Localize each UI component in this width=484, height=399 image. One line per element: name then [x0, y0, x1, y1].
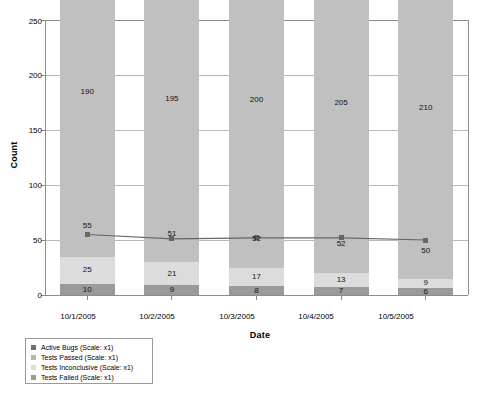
- y-tick-label-200: 200: [14, 72, 42, 80]
- x-tick-label-2: 10/2/2005: [122, 313, 192, 321]
- legend-label-active-bugs: Active Bugs (Scale: x1): [41, 344, 113, 351]
- x-tick-label-4: 10/4/2005: [281, 313, 351, 321]
- bar-segment-value: 8: [237, 287, 277, 295]
- y-tick-label-100: 100: [14, 182, 42, 190]
- bar-segment-value: 190: [67, 88, 107, 96]
- bar-segment-value: 52: [321, 240, 361, 248]
- bar-segment-value: 210: [406, 104, 446, 112]
- bar-segment-value: 50: [406, 247, 446, 255]
- bar-segment-value: 6: [406, 288, 446, 296]
- bar-segment-value: 25: [67, 266, 107, 274]
- legend-label-tests-failed: Tests Failed (Scale: x1): [41, 374, 114, 381]
- bar-segment-value: 55: [67, 222, 107, 230]
- x-tick-label-3: 10/3/2005: [202, 313, 272, 321]
- bar-segment-value: 13: [321, 276, 361, 284]
- chart-legend: Active Bugs (Scale: x1) Tests Passed (Sc…: [25, 338, 153, 384]
- bar-segment-value: 51: [152, 230, 192, 238]
- legend-item-tests-inconclusive: Tests Inconclusive (Scale: x1): [31, 363, 152, 373]
- y-tick-label-250: 250: [14, 18, 42, 26]
- bar-segment-value: 200: [237, 96, 277, 104]
- y-tick-label-150: 150: [14, 127, 42, 135]
- legend-label-tests-inconclusive: Tests Inconclusive (Scale: x1): [41, 364, 133, 371]
- bar-segment-value: 7: [321, 287, 361, 295]
- bar-segment-value: 9: [406, 279, 446, 287]
- legend-item-tests-failed: Tests Failed (Scale: x1): [31, 373, 152, 383]
- legend-swatch-tests-failed: [31, 375, 36, 380]
- bar-segment-value: 52: [237, 235, 277, 243]
- bar-segment-value: 21: [152, 270, 192, 278]
- legend-label-tests-passed: Tests Passed (Scale: x1): [41, 354, 118, 361]
- bar-segment-value: 10: [67, 286, 107, 294]
- x-tick-label-5: 10/5/2005: [361, 313, 431, 321]
- x-tick-label-1: 10/1/2005: [43, 313, 113, 321]
- bar-segment-value: 17: [237, 273, 277, 281]
- bar-segment-value: 205: [321, 99, 361, 107]
- legend-swatch-tests-passed: [31, 355, 36, 360]
- legend-item-tests-passed: Tests Passed (Scale: x1): [31, 353, 152, 363]
- bar-segment-value: 9: [152, 286, 192, 294]
- y-tick-label-0: 0: [14, 292, 42, 300]
- bug-and-test-trend-chart: Count Date 250 200 150 100 50 0 10/1/200…: [0, 0, 484, 399]
- legend-swatch-active-bugs: [31, 345, 36, 350]
- bar-segment-value: 195: [152, 95, 192, 103]
- legend-item-active-bugs: Active Bugs (Scale: x1): [31, 343, 152, 353]
- legend-swatch-tests-inconclusive: [31, 365, 36, 370]
- y-tick-label-50: 50: [14, 237, 42, 245]
